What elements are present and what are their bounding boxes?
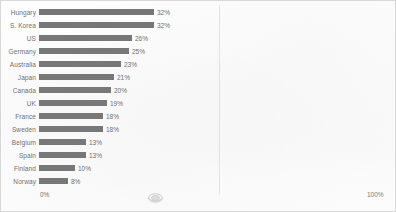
- bar: [39, 9, 154, 15]
- category-label: Australia: [1, 58, 39, 71]
- bar-value-label: 26%: [135, 32, 148, 45]
- bar: [39, 139, 86, 145]
- bar-value-label: 23%: [124, 58, 137, 71]
- bar-row: Canada 20%: [1, 84, 396, 97]
- category-label: Canada: [1, 84, 39, 97]
- bar-row: Sweden 18%: [1, 123, 396, 136]
- axis-tick-label-max: 100%: [367, 191, 384, 198]
- bar-track: 25%: [39, 45, 396, 58]
- category-label: UK: [1, 97, 39, 110]
- bar: [39, 165, 75, 171]
- bar-track: 21%: [39, 71, 396, 84]
- category-label: Norway: [1, 175, 39, 188]
- bar: [39, 178, 68, 184]
- oval-stamp-icon: [147, 192, 164, 204]
- bar-row: S. Korea 32%: [1, 19, 396, 32]
- bar-value-label: 13%: [89, 149, 102, 162]
- category-label: Germany: [1, 45, 39, 58]
- category-label: US: [1, 32, 39, 45]
- bar: [39, 87, 111, 93]
- bar-track: 23%: [39, 58, 396, 71]
- category-label: Hungary: [1, 6, 39, 19]
- bar-value-label: 18%: [106, 110, 119, 123]
- bar-row: UK 19%: [1, 97, 396, 110]
- bar: [39, 22, 154, 28]
- bar-value-label: 32%: [157, 6, 170, 19]
- bar-row: Australia 23%: [1, 58, 396, 71]
- bar-value-label: 10%: [78, 162, 91, 175]
- bar-track: 32%: [39, 19, 396, 32]
- bar: [39, 126, 103, 132]
- bar: [39, 100, 107, 106]
- bar-track: 32%: [39, 6, 396, 19]
- category-label: S. Korea: [1, 19, 39, 32]
- bar: [39, 152, 86, 158]
- bar-chart-figure: Hungary 32% S. Korea 32% US 26% Germany: [0, 0, 396, 212]
- bar-row: Germany 25%: [1, 45, 396, 58]
- bar: [39, 74, 114, 80]
- bar-track: 8%: [39, 175, 396, 188]
- category-label: Belgium: [1, 136, 39, 149]
- bar-track: 13%: [39, 149, 396, 162]
- bar-value-label: 21%: [117, 71, 130, 84]
- bar-track: 26%: [39, 32, 396, 45]
- bar-row: Norway 8%: [1, 175, 396, 188]
- category-label: France: [1, 110, 39, 123]
- bar: [39, 113, 103, 119]
- bar: [39, 35, 132, 41]
- plot-area: Hungary 32% S. Korea 32% US 26% Germany: [1, 6, 396, 188]
- bar: [39, 61, 121, 67]
- x-axis: 0% 100%: [1, 191, 396, 205]
- category-label: Spain: [1, 149, 39, 162]
- bar-track: 19%: [39, 97, 396, 110]
- bar-track: 13%: [39, 136, 396, 149]
- bar-value-label: 19%: [110, 97, 123, 110]
- bar-row: US 26%: [1, 32, 396, 45]
- axis-tick-label-min: 0%: [40, 191, 49, 198]
- bar-track: 20%: [39, 84, 396, 97]
- bar-track: 10%: [39, 162, 396, 175]
- category-label: Finland: [1, 162, 39, 175]
- bar-value-label: 20%: [114, 84, 127, 97]
- bar-value-label: 25%: [132, 45, 145, 58]
- bar-track: 18%: [39, 110, 396, 123]
- bar-row: Belgium 13%: [1, 136, 396, 149]
- bar: [39, 48, 129, 54]
- bar-row: Spain 13%: [1, 149, 396, 162]
- vertical-gridline: [219, 6, 220, 194]
- bar-row: France 18%: [1, 110, 396, 123]
- bar-row: Hungary 32%: [1, 6, 396, 19]
- category-label: Japan: [1, 71, 39, 84]
- bar-value-label: 18%: [106, 123, 119, 136]
- bar-track: 18%: [39, 123, 396, 136]
- bar-value-label: 32%: [157, 19, 170, 32]
- bar-value-label: 8%: [71, 175, 80, 188]
- bar-row: Japan 21%: [1, 71, 396, 84]
- category-label: Sweden: [1, 123, 39, 136]
- bar-row: Finland 10%: [1, 162, 396, 175]
- bar-value-label: 13%: [89, 136, 102, 149]
